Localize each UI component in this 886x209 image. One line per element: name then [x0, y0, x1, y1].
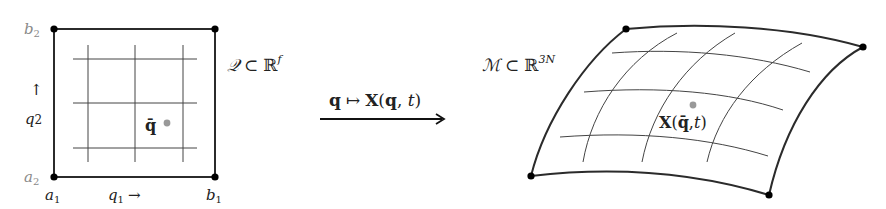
- set-label-M: ℳ⊂ℝ3N: [482, 53, 555, 75]
- corner-dot: [50, 25, 57, 32]
- axis-arrow-q2: ↑: [30, 81, 43, 99]
- set-label-Q: 𝒬⊂ℝf: [227, 53, 283, 75]
- manifold-edge-right: [769, 47, 863, 195]
- mapped-point-label: X(q̄,t): [659, 113, 707, 132]
- mapping-label: q↦X(q, t): [329, 90, 421, 110]
- corner-dot: [211, 173, 218, 180]
- manifold-edge-left: [531, 29, 626, 176]
- mapped-point-dot: [690, 102, 697, 109]
- axis-label-q2: q2: [25, 110, 42, 128]
- label-a1: a1: [45, 186, 60, 205]
- axis-label-q1: q1→: [108, 186, 141, 205]
- manifold-grid-line: [560, 135, 768, 156]
- point-q-bar-dot: [164, 120, 171, 127]
- corner-dot: [765, 191, 772, 198]
- label-b2: b2: [24, 20, 40, 39]
- manifold-grid-line: [612, 51, 810, 72]
- corner-dot: [859, 43, 866, 50]
- corner-dot: [50, 173, 57, 180]
- label-a2: a2: [24, 168, 39, 187]
- point-q-bar-label: q̄: [145, 116, 156, 135]
- manifold-grid-line: [584, 90, 783, 110]
- corner-dot: [622, 25, 629, 32]
- diagram-canvas: q̄ b2 a2 a1 b1 q1→ ↑ q2 𝒬⊂ℝf q↦X(q, t): [0, 0, 886, 209]
- mapping-arrow-group: q↦X(q, t): [320, 90, 444, 124]
- corner-dot: [211, 25, 218, 32]
- manifold-edge-top: [626, 26, 863, 47]
- manifold-edge-bottom: [531, 171, 769, 195]
- corner-dot: [527, 172, 534, 179]
- label-b1: b1: [206, 186, 222, 205]
- configuration-manifold: X(q̄,t) ℳ⊂ℝ3N: [482, 25, 867, 198]
- parameter-domain: q̄ b2 a2 a1 b1 q1→ ↑ q2 𝒬⊂ℝf: [24, 20, 283, 205]
